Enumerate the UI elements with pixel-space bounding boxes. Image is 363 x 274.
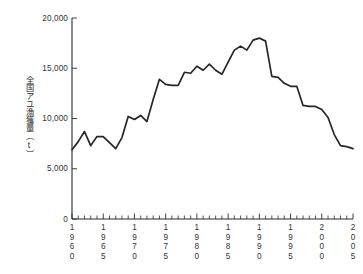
x-axis: 1960196519701975198019851990199520002005 (70, 214, 356, 261)
x-tick-label: 1960 (70, 223, 75, 261)
x-axis-minor-ticks (72, 214, 353, 220)
x-tick-label: 1965 (101, 223, 106, 261)
y-axis: 05,00010,00015,00020,000 (42, 14, 77, 224)
y-axis-ticks (72, 18, 77, 219)
x-tick-label: 1985 (226, 223, 231, 261)
y-tick-label: 5,000 (47, 164, 68, 173)
x-tick-label: 1980 (195, 223, 200, 261)
x-tick-label: 1975 (163, 223, 168, 261)
x-tick-label: 1970 (132, 223, 137, 261)
y-tick-label: 15,000 (42, 64, 68, 73)
y-axis-title: 全国アユ漁獲量（t） (17, 58, 33, 176)
y-tick-label: 20,000 (42, 14, 68, 23)
data-series-line (72, 38, 353, 150)
y-tick-label: 0 (63, 215, 68, 224)
x-tick-label: 2000 (319, 223, 324, 261)
y-axis-tick-labels: 05,00010,00015,00020,000 (42, 14, 68, 224)
y-tick-label: 10,000 (42, 114, 68, 123)
chart-container: 全国アユ漁獲量（t） 05,00010,00015,00020,000 1960… (0, 0, 363, 274)
x-tick-label: 1995 (288, 223, 293, 261)
x-tick-label: 1990 (257, 223, 262, 261)
x-tick-label: 2005 (351, 223, 356, 261)
x-axis-tick-labels: 1960196519701975198019851990199520002005 (70, 223, 356, 261)
line-chart: 05,00010,00015,00020,000 196019651970197… (0, 0, 363, 274)
